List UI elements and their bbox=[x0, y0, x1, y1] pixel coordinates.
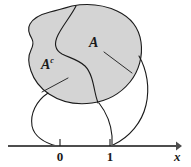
axis-tick-label-0: 0 bbox=[51, 150, 69, 163]
indicator-variable-figure: A Ac x 0 1 bbox=[0, 0, 191, 167]
region-label-a: A bbox=[89, 36, 98, 50]
region-label-a-complement: Ac bbox=[41, 58, 54, 72]
sample-space-blob bbox=[29, 5, 142, 104]
figure-canvas bbox=[0, 0, 191, 167]
region-label-a-complement-superscript: c bbox=[50, 56, 54, 65]
axis-tick-label-1: 1 bbox=[101, 150, 119, 163]
x-axis-label: x bbox=[174, 150, 181, 163]
region-label-a-complement-base: A bbox=[41, 57, 50, 72]
mapping-curve-to-zero bbox=[32, 93, 57, 146]
